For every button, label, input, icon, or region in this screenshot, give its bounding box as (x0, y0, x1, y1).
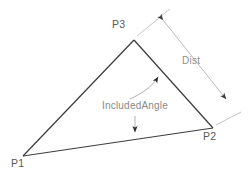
dimension-label-dist: Dist (182, 56, 200, 66)
vertex-label-p1: P1 (11, 158, 24, 169)
leader-line-included-angle (130, 77, 158, 99)
triangle-edge-p1-p3 (23, 40, 134, 156)
triangle-edge-p1-p2 (23, 128, 213, 156)
vertex-label-p2: P2 (203, 131, 216, 142)
extension-line-p2 (216, 112, 241, 125)
annotation-label-included-angle: IncludedAngle (102, 101, 168, 111)
vertex-label-p3: P3 (112, 19, 125, 30)
triangle-edge-p3-p2 (134, 40, 213, 128)
triangle-diagram: P1 P2 P3 Dist IncludedAngle (0, 0, 249, 173)
